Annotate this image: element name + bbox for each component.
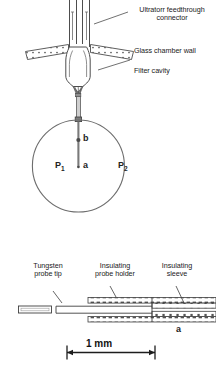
callout-filter-cavity: Filter cavity <box>134 67 170 75</box>
label-pressure-p1: P1 <box>55 160 65 172</box>
leader-tungsten-tip <box>53 291 62 303</box>
probe-tip-end-bore <box>21 308 49 311</box>
callout-ultratorr-feedthrough-connector: Ultratorr feedthrough connector <box>131 6 213 23</box>
feedthrough-assembly <box>26 0 134 212</box>
leader-filter-cavity <box>98 60 130 70</box>
insulating-sleeve-upper <box>152 303 216 308</box>
callout-insulating-sleeve: Insulating sleeve <box>150 262 204 279</box>
glass-chamber-wall-right <box>91 45 134 60</box>
glass-chamber-wall-left <box>26 45 69 60</box>
label-pressure-p2: P2 <box>118 160 128 172</box>
callout-insulating-probe-holder: Insulating probe holder <box>86 262 144 279</box>
callout-tungsten-probe-tip: Tungsten probe tip <box>19 262 77 279</box>
point-a-marker <box>77 166 80 169</box>
label-point-b: b <box>83 133 89 143</box>
leader-probe-holder <box>110 286 116 297</box>
label-point-a: a <box>83 160 88 170</box>
label-dimension-a: a <box>176 324 181 334</box>
leader-ultratorr <box>94 12 128 24</box>
probe-detail-assembly <box>19 286 217 360</box>
insulating-sleeve-lower <box>152 311 216 316</box>
scale-bar-label: 1 mm <box>86 338 112 349</box>
shaft-boundary-block <box>75 117 81 122</box>
callout-glass-chamber-wall: Glass chamber wall <box>134 47 196 55</box>
connector-ferrule-lines <box>73 12 87 40</box>
figure-probe-assembly-diagram: Ultratorr feedthrough connector Glass ch… <box>0 0 216 369</box>
point-b-marker <box>76 138 80 142</box>
probe-shaft-upper <box>76 97 80 118</box>
